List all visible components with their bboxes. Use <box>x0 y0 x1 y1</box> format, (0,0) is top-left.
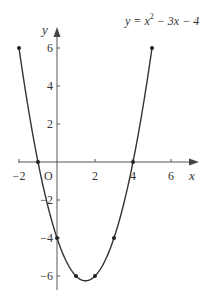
data-point <box>93 274 97 278</box>
data-point <box>131 160 135 164</box>
y-tick-label: 4 <box>47 79 53 93</box>
y-tick-label: 6 <box>47 41 53 55</box>
x-axis-arrow-icon <box>189 159 199 166</box>
y-tick-label: 2 <box>47 117 53 131</box>
data-point <box>17 46 21 50</box>
data-point <box>150 46 154 50</box>
x-tick-label: 2 <box>92 169 98 183</box>
data-point <box>36 160 40 164</box>
x-axis-label: x <box>188 168 195 183</box>
parabola-curve <box>19 48 152 281</box>
y-tick-label: −4 <box>40 231 53 245</box>
data-point <box>55 236 59 240</box>
data-point <box>112 236 116 240</box>
origin-label: O <box>44 169 53 183</box>
y-tick-label: −6 <box>40 269 53 283</box>
parabola-graph: −2246642−2−4−6 x y O y = x2 − 3x − 4 <box>0 0 211 306</box>
x-tick-label: −2 <box>13 169 26 183</box>
y-axis-label: y <box>40 22 48 37</box>
axes <box>18 27 199 290</box>
equation-label: y = x2 − 3x − 4 <box>124 12 199 28</box>
x-tick-label: 6 <box>168 169 174 183</box>
data-point <box>74 274 78 278</box>
y-axis-arrow-icon <box>54 27 61 37</box>
